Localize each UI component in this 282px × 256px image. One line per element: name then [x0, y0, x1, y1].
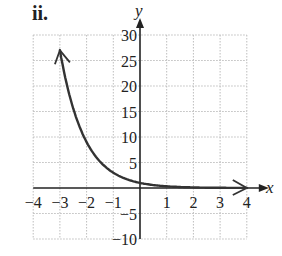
y-tick-label: 15: [121, 104, 137, 121]
x-tick-label: −3: [51, 194, 68, 211]
x-tick-labels: −4−3−2−11234: [25, 194, 251, 211]
y-tick-label: −5: [120, 206, 137, 223]
y-tick-label: 10: [121, 129, 137, 146]
y-tick-labels: 30252015105−5−10: [112, 27, 137, 248]
x-tick-label: 2: [189, 194, 197, 211]
x-tick-label: −2: [78, 194, 95, 211]
panel-label: ii.: [32, 2, 48, 24]
y-tick-label: 30: [121, 27, 137, 44]
y-axis-label: y: [133, 1, 143, 20]
axes: [33, 18, 269, 239]
x-tick-label: 4: [243, 194, 251, 211]
exponential-graph: ii. −4−3−2−11234 30252015105−5−10 x y: [0, 0, 282, 256]
curve-line: [60, 50, 247, 188]
y-tick-label: 25: [121, 53, 137, 70]
x-axis-label: x: [265, 178, 274, 197]
y-tick-label: −10: [112, 231, 137, 248]
x-tick-label: 3: [216, 194, 224, 211]
curve: [55, 50, 247, 195]
x-tick-label: −4: [25, 194, 42, 211]
y-tick-label: 20: [121, 78, 137, 95]
y-tick-label: 5: [129, 155, 137, 172]
x-tick-label: 1: [163, 194, 171, 211]
